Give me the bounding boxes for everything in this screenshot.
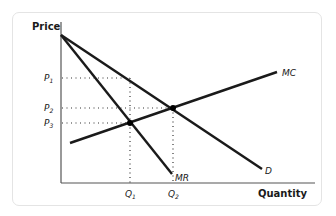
y-axis-title: Price (32, 21, 61, 32)
d-label: D (265, 166, 272, 176)
mr-label: MR (175, 173, 189, 183)
mr-mc-intersection-point (127, 120, 133, 126)
demand-curve (61, 35, 262, 169)
guide-lines (62, 78, 173, 183)
diagram-canvas: Price Quantity MC D MR P1 P2 P3 Q1 Q2 (0, 0, 336, 216)
d-mc-intersection-point (170, 105, 176, 111)
mc-label: MC (282, 68, 297, 78)
p1-label: P1 (44, 73, 53, 84)
marginal-revenue-curve (61, 35, 172, 174)
q2-label: Q2 (168, 189, 179, 200)
p2-label: P2 (44, 103, 53, 114)
x-axis-title: Quantity (258, 188, 307, 199)
p3-label: P3 (44, 118, 53, 129)
q1-label: Q1 (125, 189, 136, 200)
